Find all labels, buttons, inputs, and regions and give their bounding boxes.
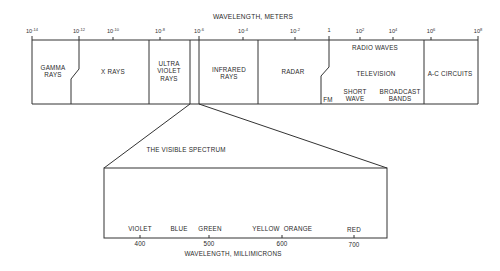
region-x-rays: X RAYS [101, 68, 125, 75]
axis-tick-label: 104 [389, 27, 397, 34]
label-line: RAYS [41, 71, 66, 78]
label-line: VIOLET [157, 67, 181, 74]
axis-tick-label: 10-6 [194, 27, 204, 34]
label-line: INFRARED [212, 66, 246, 73]
label-line: GAMMA [41, 64, 66, 71]
label-line: BROADCAST [380, 88, 421, 95]
spectrum-diagram [0, 0, 500, 271]
tick-400: 400 [134, 240, 145, 247]
expansion-line-left [104, 104, 190, 168]
expansion-line-right [199, 104, 387, 168]
gamma-xray-divider [71, 36, 79, 104]
color-blue: BLUE [170, 225, 187, 232]
axis-tick-label: 10-4 [238, 27, 248, 34]
axis-tick-label: 10-8 [155, 27, 165, 34]
color-orange: ORANGE [284, 225, 313, 232]
region-short-wave: SHORT WAVE [344, 88, 367, 103]
label-line: ULTRA [157, 60, 181, 67]
axis-tick-label: 10-2 [290, 27, 300, 34]
tick-600: 600 [276, 240, 287, 247]
tick-500: 500 [203, 240, 214, 247]
color-red: RED [347, 226, 361, 233]
label-line: BANDS [380, 95, 421, 102]
region-fm: FM [323, 96, 333, 103]
tick-700: 700 [348, 241, 359, 248]
region-infrared: INFRARED RAYS [212, 66, 246, 81]
label-line: RAYS [157, 75, 181, 82]
axis-tick-label: 102 [356, 27, 364, 34]
color-violet: VIOLET [128, 225, 152, 232]
region-radar: RADAR [281, 68, 304, 75]
visible-spectrum-title: THE VISIBLE SPECTRUM [146, 146, 225, 153]
label-line: WAVE [344, 95, 367, 102]
axis-tick-label: 10-12 [73, 27, 85, 34]
color-yellow: YELLOW [252, 225, 279, 232]
color-green: GREEN [198, 225, 221, 232]
axis-title: WAVELENGTH, METERS [213, 13, 293, 20]
axis-tick-label: 10-10 [107, 27, 119, 34]
region-ultraviolet: ULTRA VIOLET RAYS [157, 60, 181, 82]
label-line: SHORT [344, 88, 367, 95]
radar-radio-divider [321, 36, 329, 104]
region-gamma-rays: GAMMA RAYS [41, 64, 66, 79]
region-broadcast-bands: BROADCAST BANDS [380, 88, 421, 103]
region-ac-circuits: A-C CIRCUITS [428, 70, 473, 77]
visible-axis-label: WAVELENGTH, MILLIMICRONS [184, 250, 281, 257]
axis-tick-label: 106 [427, 27, 435, 34]
axis-tick-label: 10-14 [26, 27, 38, 34]
label-line: RAYS [212, 73, 246, 80]
region-television: TELEVISION [356, 70, 395, 77]
region-radio-waves-header: RADIO WAVES [352, 44, 398, 51]
axis-tick-label: 1 [327, 27, 330, 33]
axis-tick-label: 108 [474, 27, 482, 34]
